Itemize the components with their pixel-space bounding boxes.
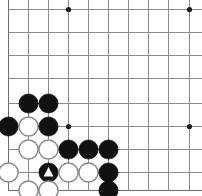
stone-black-Er7	[79, 140, 98, 159]
black-stone-icon	[59, 140, 78, 159]
grid-lines	[8, 0, 202, 191]
star-point-Dr1	[66, 7, 71, 12]
white-stone-icon	[19, 181, 38, 196]
stone-black-Cr8	[39, 163, 58, 182]
stone-black-Fr9	[99, 181, 118, 196]
black-stone-icon	[0, 117, 18, 136]
black-stone-icon	[39, 94, 58, 113]
stone-black-Ar6	[0, 117, 18, 136]
stone-white-Br9	[19, 181, 38, 196]
stone-black-Fr8	[99, 163, 118, 182]
black-stone-icon	[99, 163, 118, 182]
white-stone-icon	[39, 140, 58, 159]
black-stone-icon	[19, 94, 38, 113]
stone-white-Cr9	[39, 181, 58, 196]
black-stone-icon	[79, 140, 98, 159]
stone-white-Br6	[19, 117, 38, 136]
white-stone-icon	[39, 181, 58, 196]
stone-white-Cr7	[39, 140, 58, 159]
go-board-canvas	[0, 0, 202, 196]
stones	[0, 94, 118, 196]
white-stone-icon	[19, 117, 38, 136]
go-board-diagram	[0, 0, 202, 196]
black-stone-icon	[99, 181, 118, 196]
stone-white-Er8	[79, 163, 98, 182]
stone-black-Fr7	[99, 140, 118, 159]
star-point-Kr1	[187, 7, 192, 12]
white-stone-icon	[19, 140, 38, 159]
white-stone-icon	[0, 163, 18, 182]
white-stone-icon	[59, 163, 78, 182]
stone-white-Br7	[19, 140, 38, 159]
black-stone-icon	[99, 140, 118, 159]
star-point-Kr6	[187, 124, 192, 129]
stone-black-Br5	[19, 94, 38, 113]
black-stone-icon	[39, 117, 58, 136]
stone-black-Cr5	[39, 94, 58, 113]
white-stone-icon	[79, 163, 98, 182]
stone-black-Cr6	[39, 117, 58, 136]
stone-white-Dr8	[59, 163, 78, 182]
star-point-Dr6	[66, 124, 71, 129]
stone-black-Dr7	[59, 140, 78, 159]
stone-white-Ar8	[0, 163, 18, 182]
